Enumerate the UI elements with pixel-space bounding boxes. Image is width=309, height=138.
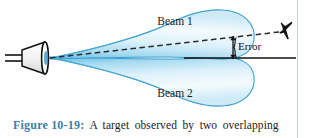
figure-caption-text: A target observed by two overlapping [89, 119, 278, 131]
figure-container: Beam 1 Beam 2 Error Figure 10-19:A targe… [0, 0, 309, 138]
horn-antenna-icon [5, 42, 48, 74]
beam-2-label: Beam 2 [157, 87, 193, 99]
figure-caption: Figure 10-19:A target observed by two ov… [13, 118, 295, 133]
page-edge-rule [297, 0, 298, 138]
beam-1-label: Beam 1 [157, 15, 193, 27]
error-label: Error [238, 40, 262, 52]
figure-number: Figure 10-19: [13, 118, 84, 132]
aircraft-target-icon [279, 21, 294, 40]
